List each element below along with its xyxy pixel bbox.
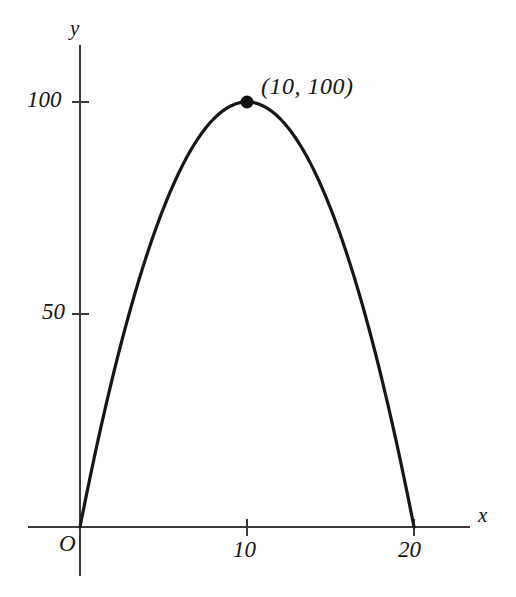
vertex-annotation-label: (10, 100)	[261, 74, 353, 98]
y-tick-label-100: 100	[27, 88, 62, 111]
x-axis-label: x	[478, 505, 487, 526]
y-tick-label-50: 50	[42, 300, 65, 323]
x-tick-label-10: 10	[233, 538, 256, 561]
vertex-point-marker	[241, 96, 254, 109]
parabola-curve	[80, 102, 414, 527]
x-tick-label-20: 20	[398, 538, 421, 561]
parabola-figure: y x 100 50 O 10 20 (10, 100)	[0, 0, 516, 597]
origin-label: O	[59, 532, 76, 555]
plot-canvas	[0, 0, 516, 597]
y-axis-label: y	[70, 18, 79, 39]
